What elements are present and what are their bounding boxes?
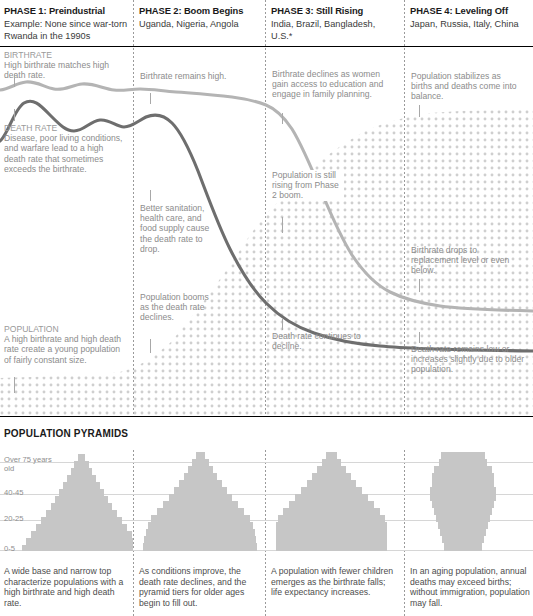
annotation-p2-sanitation: Better sanitation, health care, and food…	[140, 203, 220, 254]
leader-deathrate	[14, 109, 15, 121]
leader-p2-boom	[150, 339, 151, 353]
p4-stabilize-text: Population stabilizes as births and deat…	[411, 71, 523, 102]
transition-chart: BIRTHRATE High birthrate matches high de…	[0, 47, 533, 415]
phase-header-3: PHASE 3: Still Rising India, Brazil, Ban…	[271, 5, 399, 42]
leader-birthrate	[14, 74, 15, 87]
phase-title-1: PHASE 1: Preindustrial	[4, 5, 130, 17]
phase-subtitle-4: Japan, Russia, Italy, China	[410, 18, 530, 30]
pyramids-divider	[0, 416, 533, 417]
pyramid-caption-1: A wide base and narrow top characterize …	[4, 566, 128, 608]
annotation-population: POPULATION A high birthrate and high dea…	[4, 324, 128, 365]
phase-subtitle-2: Uganda, Nigeria, Angola	[139, 18, 261, 30]
birthrate-text: High birthrate matches high death rate.	[4, 60, 126, 80]
leader-p3-rising	[282, 217, 283, 233]
pyramids-title: POPULATION PYRAMIDS	[4, 428, 128, 439]
pyramid-1-shape	[0, 450, 133, 560]
population-text: A high birthrate and high death rate cre…	[4, 334, 128, 365]
annotation-deathrate: DEATH RATE Disease, poor living conditio…	[4, 123, 126, 174]
annotation-birthrate: BIRTHRATE High birthrate matches high de…	[4, 50, 126, 81]
leader-p3-death	[282, 319, 283, 330]
p3-birthrate-text: Birthrate declines as women gain access …	[272, 69, 392, 100]
annotation-p2-boom: Population booms as the death rate decli…	[140, 292, 220, 323]
leader-population	[14, 377, 15, 393]
leader-p2-sanitation	[150, 190, 151, 201]
annotation-p3-death: Death rate continues to decline.	[272, 331, 384, 351]
phase-title-4: PHASE 4: Leveling Off	[410, 5, 530, 17]
leader-p4-birthrate	[419, 279, 420, 292]
pyramid-caption-2: As conditions improve, the death rate de…	[139, 566, 259, 608]
p4-death-text: Death rate remains low or increases slig…	[411, 344, 529, 375]
infographic-root: PHASE 1: Preindustrial Example: None sin…	[0, 0, 533, 616]
phase-subtitle-1: Example: None since war-torn Rwanda in t…	[4, 18, 130, 42]
leader-p4-death	[419, 332, 420, 343]
pyramid-caption-4: In an aging population, annual deaths ma…	[410, 566, 530, 608]
leader-p2-birthrate	[150, 93, 151, 104]
leader-p4-stabilize	[419, 105, 420, 117]
population-label: POPULATION	[4, 324, 128, 334]
p2-boom-text: Population booms as the death rate decli…	[140, 292, 220, 323]
phase-header-1: PHASE 1: Preindustrial Example: None sin…	[4, 5, 130, 42]
phase-title-3: PHASE 3: Still Rising	[271, 5, 399, 17]
phase-header-4: PHASE 4: Leveling Off Japan, Russia, Ita…	[410, 5, 530, 30]
annotation-p2-birthrate: Birthrate remains high.	[140, 71, 250, 81]
deathrate-label: DEATH RATE	[4, 123, 126, 133]
pyramid-caption-3: A population with fewer children emerges…	[271, 566, 397, 598]
deathrate-text: Disease, poor living conditions, and war…	[4, 133, 126, 174]
p2-sanitation-text: Better sanitation, health care, and food…	[140, 203, 220, 254]
pyramid-3-shape	[266, 450, 404, 560]
annotation-p4-birthrate: Birthrate drops to replacement level or …	[411, 245, 523, 276]
population-pyramids: Over 75 years old 40-45 20-25 0-5	[0, 450, 533, 560]
p3-death-text: Death rate continues to decline.	[272, 331, 384, 351]
phase-header-2: PHASE 2: Boom Begins Uganda, Nigeria, An…	[139, 5, 261, 30]
p2-birthrate-text: Birthrate remains high.	[140, 71, 250, 81]
pyramid-phase-4	[405, 450, 533, 560]
annotation-p3-rising: Population is still rising from Phase 2 …	[272, 170, 344, 201]
phase-subtitle-3: India, Brazil, Bangladesh, U.S.*	[271, 18, 399, 42]
pyramid-phase-3	[266, 450, 404, 560]
phase-title-2: PHASE 2: Boom Begins	[139, 5, 261, 17]
pyramid-phase-1	[0, 450, 133, 560]
annotation-p4-stabilize: Population stabilizes as births and deat…	[411, 71, 523, 102]
annotation-p3-birthrate: Birthrate declines as women gain access …	[272, 69, 392, 100]
pyramid-4-shape	[405, 450, 533, 560]
p3-rising-text: Population is still rising from Phase 2 …	[272, 170, 344, 201]
p4-birthrate-text: Birthrate drops to replacement level or …	[411, 245, 523, 276]
leader-p3-birthrate	[282, 113, 283, 124]
birthrate-label: BIRTHRATE	[4, 50, 126, 60]
annotation-p4-death: Death rate remains low or increases slig…	[411, 344, 529, 375]
pyramid-2-shape	[134, 450, 265, 560]
pyramid-phase-2	[134, 450, 265, 560]
